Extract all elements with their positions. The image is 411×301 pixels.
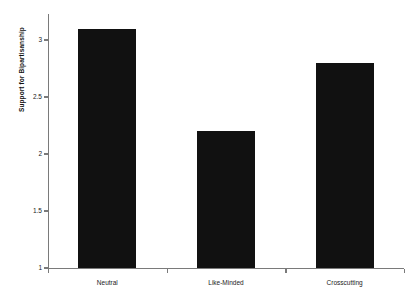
y-tick-label: 2.5	[18, 93, 42, 101]
bar-like-minded	[197, 131, 255, 268]
bar-chart: Support for Bipartisanship 11.522.53 Neu…	[0, 0, 411, 301]
y-tick-label: 1	[18, 264, 42, 272]
x-tick-label: Like-Minded	[176, 278, 276, 287]
x-tick-mark	[48, 269, 49, 273]
bar-neutral	[78, 29, 136, 268]
x-tick-label: Crosscutting	[295, 278, 395, 287]
y-tick-mark	[44, 96, 49, 97]
x-tick-mark	[167, 269, 168, 273]
y-tick-label: 2	[18, 150, 42, 158]
bar-crosscutting	[316, 63, 374, 268]
y-tick-label: 1.5	[18, 207, 42, 215]
y-tick-label: 3	[18, 36, 42, 44]
y-tick-mark	[44, 39, 49, 40]
y-tick-mark	[44, 153, 49, 154]
x-tick-mark	[404, 269, 405, 273]
x-axis-line	[48, 268, 404, 269]
y-tick-mark	[44, 210, 49, 211]
y-axis-line	[48, 14, 49, 269]
x-tick-label: Neutral	[57, 278, 157, 287]
x-tick-mark	[285, 269, 286, 273]
